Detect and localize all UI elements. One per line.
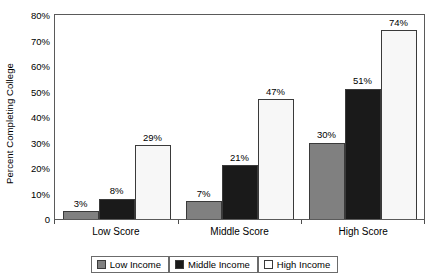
legend-item[interactable]: Low Income: [91, 256, 169, 273]
bar: [135, 145, 171, 219]
x-axis-tick-mark: [301, 220, 302, 224]
legend-label: High Income: [277, 259, 330, 270]
x-axis-tick-mark: [178, 220, 179, 224]
chart-legend: Low IncomeMiddle IncomeHigh Income: [0, 256, 429, 273]
bar-column: 3%: [63, 15, 99, 219]
legend-label: Middle Income: [188, 259, 250, 270]
bar-value-label: 8%: [110, 186, 124, 196]
bar-column: 8%: [99, 15, 135, 219]
bar-value-label: 51%: [353, 76, 372, 86]
legend-item[interactable]: Middle Income: [169, 256, 258, 273]
bar-chart-figure: Percent Completing College 010%20%30%40%…: [0, 0, 429, 280]
bar-group: 7%21%47%: [178, 15, 301, 219]
bar-group: 3%8%29%: [55, 15, 178, 219]
legend-swatch-icon: [175, 260, 184, 269]
y-axis-tick-label: 80%: [31, 10, 50, 21]
y-axis-tick-label: 50%: [31, 86, 50, 97]
legend-label: Low Income: [110, 259, 161, 270]
y-axis-tick-label: 0: [45, 214, 50, 225]
bar-column: 21%: [222, 15, 258, 219]
x-axis-tick-mark: [424, 220, 425, 224]
bar-value-label: 3%: [74, 199, 88, 209]
y-axis-tick-label: 60%: [31, 61, 50, 72]
y-axis-tick-label: 40%: [31, 112, 50, 123]
bar-column: 29%: [135, 15, 171, 219]
bar: [222, 165, 258, 219]
bar-column: 7%: [186, 15, 222, 219]
bar: [63, 211, 99, 219]
x-axis-category-label: Middle Score: [178, 226, 302, 242]
bar-value-label: 29%: [143, 133, 162, 143]
plot-area: 3%8%29%7%21%47%30%51%74%: [54, 14, 425, 220]
legend-swatch-icon: [97, 260, 106, 269]
bar-value-label: 7%: [197, 189, 211, 199]
x-axis-category-labels: Low ScoreMiddle ScoreHigh Score: [54, 226, 425, 242]
legend-swatch-icon: [264, 260, 273, 269]
bar-groups: 3%8%29%7%21%47%30%51%74%: [55, 15, 424, 219]
y-axis-tick-labels: 010%20%30%40%50%60%70%80%: [16, 14, 50, 220]
bar-group: 30%51%74%: [301, 15, 424, 219]
y-axis-title-text: Percent Completing College: [4, 63, 15, 184]
bar-value-label: 47%: [266, 87, 285, 97]
bar: [309, 143, 345, 220]
y-axis-tick-label: 70%: [31, 35, 50, 46]
bar-value-label: 74%: [389, 18, 408, 28]
bar-column: 30%: [309, 15, 345, 219]
bar-value-label: 30%: [317, 130, 336, 140]
y-axis-tick-label: 20%: [31, 163, 50, 174]
bar-column: 51%: [345, 15, 381, 219]
y-axis-title: Percent Completing College: [2, 18, 16, 228]
bar: [99, 199, 135, 219]
x-axis-tick-mark: [54, 220, 55, 224]
bar: [345, 89, 381, 219]
x-axis-category-label: Low Score: [54, 226, 178, 242]
bar-value-label: 21%: [230, 153, 249, 163]
bar: [186, 201, 222, 219]
bar-column: 47%: [258, 15, 294, 219]
legend-item[interactable]: High Income: [258, 256, 338, 273]
y-axis-tick-label: 10%: [31, 188, 50, 199]
x-axis-tick-marks: [54, 220, 425, 225]
bar-column: 74%: [381, 15, 417, 219]
y-axis-tick-label: 30%: [31, 137, 50, 148]
bar: [258, 99, 294, 219]
bar: [381, 30, 417, 219]
x-axis-category-label: High Score: [301, 226, 425, 242]
